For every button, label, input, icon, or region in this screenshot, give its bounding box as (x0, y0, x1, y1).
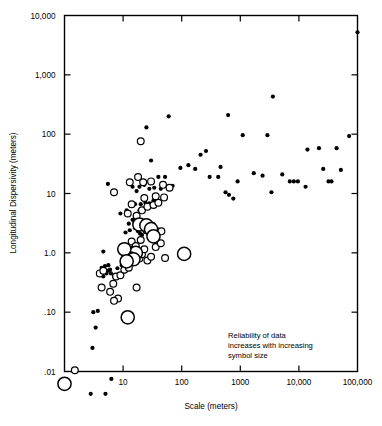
data-point-medium-reliability (137, 138, 144, 145)
y-tick-label: 1,000 (35, 71, 56, 80)
data-point-low-reliability (236, 179, 240, 183)
annotation-line-2: increases with increasing (228, 341, 313, 350)
data-point-low-reliability (91, 310, 95, 314)
data-point-low-reliability (355, 30, 359, 34)
data-point-low-reliability (271, 94, 275, 98)
data-point-low-reliability (135, 189, 139, 193)
y-tick-label: 100 (42, 130, 56, 139)
y-tick-label: 1.0 (44, 249, 56, 258)
data-point-low-reliability (317, 146, 321, 150)
data-point-low-reliability (292, 179, 296, 183)
data-point-low-reliability (303, 185, 307, 189)
data-point-low-reliability (163, 175, 167, 179)
data-point-low-reliability (144, 125, 148, 129)
data-point-low-reliability (94, 325, 98, 329)
data-point-low-reliability (305, 147, 309, 151)
data-point-medium-reliability (141, 195, 148, 202)
data-point-low-reliability (178, 166, 182, 170)
data-point-low-reliability (127, 222, 131, 226)
data-point-medium-reliability (161, 194, 168, 201)
data-point-medium-reliability (107, 288, 114, 295)
data-point-low-reliability (128, 228, 132, 232)
data-point-low-reliability (223, 190, 227, 194)
data-point-low-reliability (103, 392, 107, 396)
data-point-medium-reliability (100, 267, 107, 274)
data-point-low-reliability (218, 165, 222, 169)
data-point-medium-reliability (126, 179, 133, 186)
data-point-low-reliability (288, 179, 292, 183)
data-point-high-reliability (147, 230, 160, 243)
data-point-medium-reliability (111, 189, 118, 196)
data-point-low-reliability (339, 168, 343, 172)
data-point-high-reliability (58, 377, 71, 390)
data-point-medium-reliability (111, 297, 118, 304)
data-point-medium-reliability (162, 255, 169, 262)
data-point-low-reliability (208, 175, 212, 179)
data-point-low-reliability (260, 174, 264, 178)
data-point-low-reliability (216, 175, 220, 179)
x-tick-label: 10,000 (286, 378, 311, 387)
annotation-line-3: symbol size (228, 351, 268, 360)
data-point-low-reliability (280, 172, 284, 176)
data-point-low-reliability (241, 133, 245, 137)
data-point-medium-reliability (133, 284, 140, 291)
data-point-low-reliability (252, 171, 256, 175)
data-point-low-reliability (90, 346, 94, 350)
data-point-high-reliability (118, 243, 131, 256)
data-point-low-reliability (101, 249, 105, 253)
data-point-medium-reliability (110, 280, 117, 287)
data-point-low-reliability (296, 179, 300, 183)
data-point-medium-reliability (148, 178, 155, 185)
data-point-low-reliability (329, 179, 333, 183)
data-point-low-reliability (335, 146, 339, 150)
y-tick-label: .10 (44, 308, 56, 317)
data-point-low-reliability (231, 197, 235, 201)
y-tick-label: 10,000 (30, 12, 55, 21)
data-point-low-reliability (347, 134, 351, 138)
y-axis-label: Longitudinal Dispersivity (meters) (9, 132, 18, 253)
y-tick-label: 10 (46, 190, 56, 199)
data-point-low-reliability (106, 182, 110, 186)
data-point-low-reliability (149, 158, 153, 162)
x-tick-label: 100 (175, 378, 189, 387)
x-axis-label: Scale (meters) (184, 402, 238, 411)
y-tick-label: .01 (44, 368, 56, 377)
data-point-low-reliability (115, 266, 119, 270)
data-point-low-reliability (156, 175, 160, 179)
data-point-medium-reliability (155, 199, 162, 206)
data-point-low-reliability (193, 167, 197, 171)
data-point-low-reliability (227, 193, 231, 197)
data-point-low-reliability (147, 187, 151, 191)
plot-background (0, 0, 382, 426)
data-point-low-reliability (198, 153, 202, 157)
data-point-medium-reliability (124, 210, 131, 217)
data-point-medium-reliability (71, 367, 78, 374)
data-point-low-reliability (109, 377, 113, 381)
chart-figure: 110100100010,000100,000 .01.101.0101001,… (0, 0, 382, 426)
data-point-high-reliability (178, 247, 191, 260)
data-point-high-reliability (121, 311, 134, 324)
data-point-medium-reliability (166, 184, 173, 191)
data-point-low-reliability (108, 268, 112, 272)
data-point-low-reliability (89, 392, 93, 396)
data-point-medium-reliability (137, 237, 144, 244)
data-point-medium-reliability (160, 181, 167, 188)
data-point-low-reliability (118, 211, 122, 215)
data-point-medium-reliability (152, 193, 159, 200)
data-point-low-reliability (96, 309, 100, 313)
data-point-low-reliability (265, 133, 269, 137)
data-point-high-reliability (120, 255, 133, 268)
data-point-low-reliability (152, 186, 156, 190)
data-point-medium-reliability (148, 253, 155, 260)
data-point-low-reliability (123, 230, 127, 234)
data-point-medium-reliability (128, 201, 135, 208)
scatter-plot-svg: 110100100010,000100,000 .01.101.0101001,… (0, 0, 382, 426)
x-tick-label: 100,000 (343, 378, 373, 387)
data-point-low-reliability (167, 114, 171, 118)
data-point-low-reliability (204, 149, 208, 153)
data-point-low-reliability (186, 163, 190, 167)
data-point-low-reliability (321, 167, 325, 171)
data-point-medium-reliability (140, 179, 147, 186)
data-point-low-reliability (269, 190, 273, 194)
data-point-low-reliability (106, 263, 110, 267)
